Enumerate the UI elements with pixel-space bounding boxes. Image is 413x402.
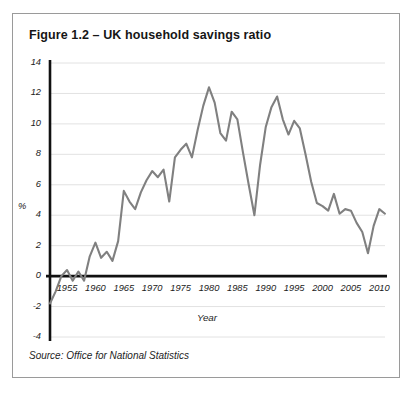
y-axis-title: % bbox=[18, 201, 26, 211]
y-tick-0: 0 bbox=[19, 270, 41, 280]
x-axis-title: Year bbox=[13, 312, 401, 323]
y-tick-10: 10 bbox=[19, 118, 41, 128]
chart-plot-area: 14121086420-2-4 195519601965197019751980… bbox=[13, 14, 401, 379]
savings-ratio-line-chart bbox=[13, 14, 401, 379]
y-tick--4: -4 bbox=[19, 331, 41, 341]
y-tick--2: -2 bbox=[19, 301, 41, 311]
figure-frame: Figure 1.2 – UK household savings ratio … bbox=[12, 13, 400, 378]
series-line-uk-savings-ratio bbox=[50, 87, 385, 303]
y-tick-2: 2 bbox=[19, 240, 41, 250]
y-tick-12: 12 bbox=[19, 87, 41, 97]
source-note: Source: Office for National Statistics bbox=[29, 350, 189, 361]
y-tick-14: 14 bbox=[19, 57, 41, 67]
x-tick-2010: 2010 bbox=[362, 283, 396, 293]
y-tick-8: 8 bbox=[19, 148, 41, 158]
y-tick-6: 6 bbox=[19, 179, 41, 189]
